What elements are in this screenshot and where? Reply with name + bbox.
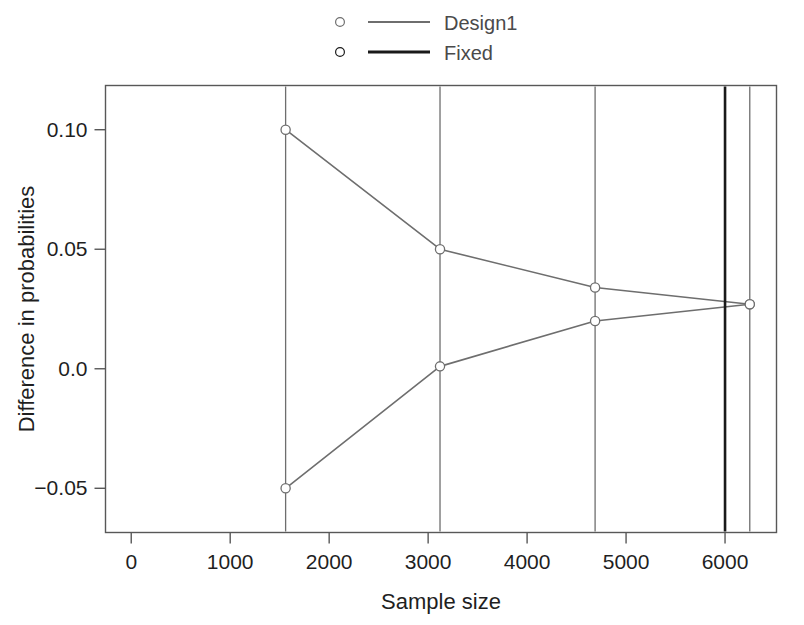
data-point-marker (590, 316, 599, 325)
y-axis-tick-label: −0.05 (34, 476, 87, 499)
data-point-marker (281, 125, 290, 134)
y-axis-tick-label: 0.0 (58, 357, 87, 380)
series-line-upper-boundary (286, 130, 750, 304)
x-axis-tick-label: 5000 (603, 550, 650, 573)
x-axis-title: Sample size (381, 589, 501, 614)
x-axis-tick-label: 3000 (405, 550, 452, 573)
x-axis-tick-label: 0 (125, 550, 137, 573)
data-point-marker (435, 362, 444, 371)
x-axis-tick-label: 1000 (207, 550, 254, 573)
series-line-lower-boundary (286, 304, 750, 488)
y-axis-title: Difference in probabilities (14, 186, 39, 433)
data-point-marker (435, 245, 444, 254)
legend-label-design1: Design1 (444, 12, 517, 34)
y-axis-tick-label: 0.10 (47, 118, 88, 141)
legend-marker-design1 (336, 18, 345, 27)
plot-frame (106, 86, 777, 533)
data-point-marker (281, 484, 290, 493)
x-axis-tick-label: 6000 (702, 550, 749, 573)
data-point-marker (590, 283, 599, 292)
data-point-marker (745, 300, 754, 309)
chart-figure: 0100020003000400050006000−0.050.00.050.1… (0, 0, 804, 625)
legend-label-fixed: Fixed (444, 42, 493, 64)
y-axis-tick-label: 0.05 (47, 237, 88, 260)
line-chart: 0100020003000400050006000−0.050.00.050.1… (0, 0, 804, 625)
x-axis-tick-label: 4000 (504, 550, 551, 573)
legend-marker-fixed (336, 48, 345, 57)
x-axis-tick-label: 2000 (306, 550, 353, 573)
